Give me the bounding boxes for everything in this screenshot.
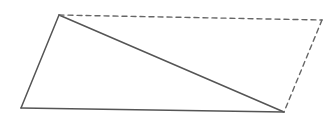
- parallelogram-diagram: [0, 0, 333, 120]
- solid-edge-AB: [21, 15, 59, 108]
- solid-edge-BC: [21, 108, 284, 112]
- dashed-edge-DC: [284, 20, 322, 112]
- dashed-edge-AD: [59, 15, 322, 20]
- diagram-edges: [21, 15, 322, 112]
- solid-edge-AC: [59, 15, 284, 112]
